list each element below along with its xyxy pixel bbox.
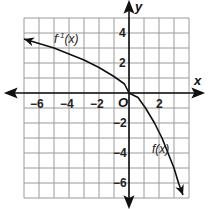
f-label: f(x) [152,142,169,156]
x-tick-label: −2 [90,97,104,111]
x-axis-label: x [193,73,202,88]
x-tick-label: −6 [30,97,44,111]
x-tick-label: 2 [156,97,163,111]
x-axis-right-arrow [193,89,203,97]
x-axis-left-arrow [6,89,16,97]
y-tick-label: 4 [119,26,126,40]
y-tick-label: −4 [113,146,127,160]
origin-label: O [118,95,128,110]
y-axis-label: y [134,0,143,14]
curves [24,38,184,195]
x-tick-label: −4 [60,97,74,111]
y-tick-label: −2 [113,116,127,130]
f-inverse-label: f-1(x) [54,31,78,46]
graph: x y O −6 −4 −2 2 4 2 −2 −4 −6 f-1(x) f(x… [0,0,208,209]
y-axis-down-arrow [125,197,133,207]
grid [24,18,189,198]
f-inverse-curve [24,39,129,93]
y-axis-up-arrow [125,2,133,12]
y-tick-label: −6 [113,176,127,190]
y-tick-label: 2 [119,56,126,70]
